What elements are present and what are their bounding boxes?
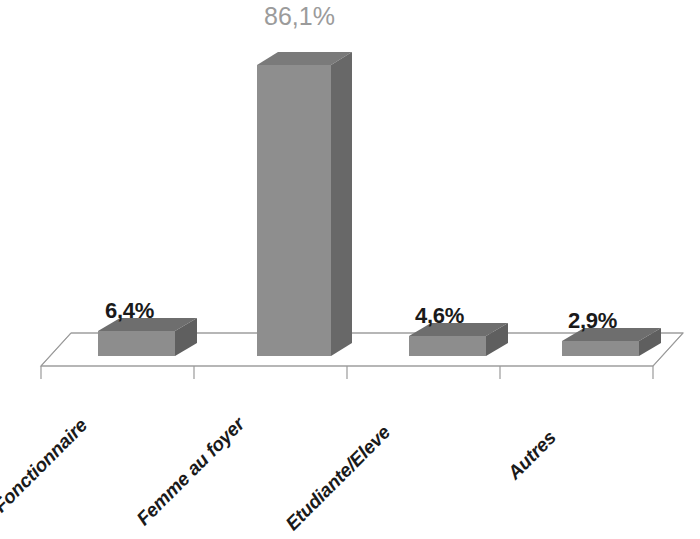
data-label-fonctionnaire: 6,4% (105, 298, 154, 324)
bar-front-face (409, 336, 486, 356)
data-label-etudiante-eleve: 4,6% (415, 303, 464, 329)
bar-femme-au-foyer[interactable] (257, 52, 352, 356)
bar-front-face (98, 331, 175, 356)
chart-container: 6,4% 86,1% 4,6% 2,9% Fonctionnaire Femme… (0, 0, 700, 539)
bar-side-face (331, 52, 352, 356)
bar-front-face (257, 65, 331, 356)
data-label-femme-au-foyer: 86,1% (264, 2, 335, 31)
data-label-autres: 2,9% (568, 308, 617, 334)
bar-front-face (562, 341, 639, 356)
